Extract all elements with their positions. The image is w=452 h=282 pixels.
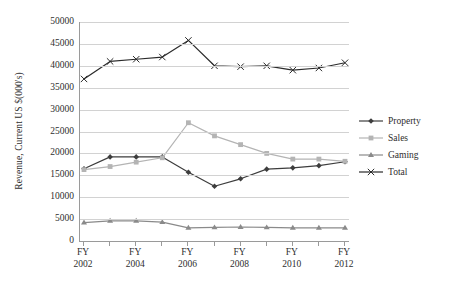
data-point-marker xyxy=(185,37,191,43)
x-axis-tick-label: FY2006 xyxy=(167,247,207,270)
data-point-marker xyxy=(290,165,296,171)
gridline xyxy=(80,22,349,23)
data-point-marker xyxy=(369,135,374,140)
data-point-marker xyxy=(134,160,139,165)
gridline xyxy=(80,88,349,89)
legend-label: Property xyxy=(384,116,421,126)
gridline xyxy=(80,219,349,220)
data-point-marker xyxy=(186,169,192,175)
y-axis-tick-label: 50000 xyxy=(28,16,74,26)
legend-marker-icon xyxy=(358,166,384,178)
x-axis-tick-mark xyxy=(292,242,293,246)
x-axis-tick-label-line2: 2008 xyxy=(220,259,260,271)
y-axis-tick-label: 0 xyxy=(28,235,74,245)
x-axis-tick-label-line1: FY xyxy=(220,247,260,259)
x-axis-tick-mark xyxy=(214,242,215,246)
x-axis-tick-label-line1: FY xyxy=(63,247,103,259)
legend-marker-icon xyxy=(358,149,384,161)
data-point-marker xyxy=(82,167,87,172)
data-point-marker xyxy=(290,157,295,162)
data-point-marker xyxy=(238,142,243,147)
data-point-marker xyxy=(212,183,218,189)
gridline xyxy=(80,110,349,111)
data-point-marker xyxy=(343,159,348,164)
x-axis-tick-label-line2: 2002 xyxy=(63,259,103,271)
y-axis-tick-labels: 0500010000150002000025000300003500040000… xyxy=(26,22,74,241)
y-axis-tick-label: 45000 xyxy=(28,38,74,48)
x-axis-tick-label-line1: FY xyxy=(167,247,207,259)
legend-label: Sales xyxy=(384,133,408,143)
legend-marker-icon xyxy=(358,132,384,144)
x-axis-tick-label-line2: 2006 xyxy=(167,259,207,271)
plot-area xyxy=(79,22,349,242)
x-axis-tick-mark xyxy=(83,242,84,246)
legend-item-total[interactable]: Total xyxy=(358,163,450,180)
x-axis-tick-label: FY2002 xyxy=(63,247,103,270)
x-axis-tick-label: FY2010 xyxy=(272,247,312,270)
x-axis-tick-label-line1: FY xyxy=(272,247,312,259)
y-axis-tick-label: 25000 xyxy=(28,126,74,136)
x-axis-tick-label: FY2004 xyxy=(115,247,155,270)
x-axis-tick-label-line2: 2010 xyxy=(272,259,312,271)
gridline xyxy=(80,153,349,154)
y-axis-tick-label: 35000 xyxy=(28,82,74,92)
x-axis-tick-label-line1: FY xyxy=(324,247,364,259)
legend-marker-icon xyxy=(358,115,384,127)
x-axis-tick-label-line1: FY xyxy=(115,247,155,259)
series-line xyxy=(84,40,345,79)
data-point-marker xyxy=(81,76,87,82)
legend-label: Gaming xyxy=(384,150,419,160)
data-point-marker xyxy=(238,176,244,182)
y-axis-tick-label: 40000 xyxy=(28,60,74,70)
chart-figure: Revenue, Current US $(000's) 05000100001… xyxy=(0,0,452,282)
x-axis-tick-mark xyxy=(135,242,136,246)
legend-label: Total xyxy=(384,167,407,177)
data-point-marker xyxy=(186,120,191,125)
y-axis-tick-label: 10000 xyxy=(28,191,74,201)
x-axis-tick-mark xyxy=(240,242,241,246)
x-axis-tick-mark xyxy=(344,242,345,246)
y-axis-tick-label: 30000 xyxy=(28,104,74,114)
y-axis-tick-label: 5000 xyxy=(28,213,74,223)
y-axis-tick-label: 15000 xyxy=(28,169,74,179)
series-line xyxy=(84,157,345,186)
gridline xyxy=(80,44,349,45)
gridline xyxy=(80,132,349,133)
x-axis-tick-mark xyxy=(318,242,319,246)
y-axis-tick-label: 20000 xyxy=(28,147,74,157)
series-line xyxy=(84,123,345,170)
x-axis-tick-label: FY2008 xyxy=(220,247,260,270)
gridline xyxy=(80,175,349,176)
series-sales xyxy=(82,120,348,172)
legend-item-property[interactable]: Property xyxy=(358,112,450,129)
data-point-marker xyxy=(133,154,139,160)
x-axis-tick-labels: FY2002FY2004FY2006FY2008FY2010FY2012 xyxy=(79,242,348,278)
x-axis-tick-mark xyxy=(109,242,110,246)
x-axis-tick-label-line2: 2012 xyxy=(324,259,364,271)
data-point-marker xyxy=(107,154,113,160)
legend-item-gaming[interactable]: Gaming xyxy=(358,146,450,163)
x-axis-tick-label-line2: 2004 xyxy=(115,259,155,271)
data-point-marker xyxy=(264,166,270,172)
data-point-marker xyxy=(160,155,165,160)
x-axis-tick-mark xyxy=(187,242,188,246)
data-point-marker xyxy=(317,157,322,162)
legend: PropertySalesGamingTotal xyxy=(358,112,450,180)
data-point-marker xyxy=(212,133,217,138)
x-axis-tick-mark xyxy=(161,242,162,246)
gridline xyxy=(80,66,349,67)
data-point-marker xyxy=(316,163,322,169)
x-axis-tick-label: FY2012 xyxy=(324,247,364,270)
gridline xyxy=(80,197,349,198)
data-point-marker xyxy=(368,118,374,124)
legend-item-sales[interactable]: Sales xyxy=(358,129,450,146)
x-axis-tick-mark xyxy=(266,242,267,246)
data-point-marker xyxy=(108,164,113,169)
